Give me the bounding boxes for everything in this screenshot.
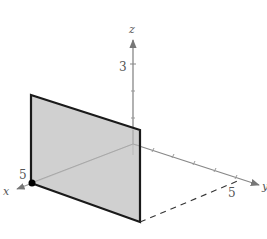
- dashed-guide-line: [140, 180, 240, 222]
- x-tick-label: 5: [19, 168, 27, 182]
- y-axis-label: y: [261, 180, 267, 193]
- plane-x-equals-5: [31, 95, 140, 222]
- y-tick-label: 5: [228, 186, 236, 200]
- x-axis-label: x: [3, 185, 10, 198]
- y-axis: [133, 144, 259, 185]
- z-axis-label: z: [128, 23, 135, 36]
- point-x5: [29, 180, 36, 187]
- figure-3d-plane: z 3 x 5 y 5: [0, 0, 267, 239]
- plot-canvas: z 3 x 5 y 5: [0, 0, 267, 239]
- z-tick-label: 3: [119, 60, 127, 74]
